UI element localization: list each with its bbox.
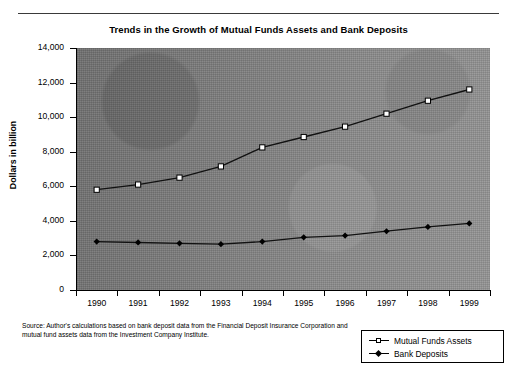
data-point-open-square bbox=[467, 87, 472, 92]
chart-figure: Dollars in billion 02,0004,0006,0008,000… bbox=[0, 0, 517, 365]
data-point-filled-diamond bbox=[94, 239, 100, 245]
mutual-funds-markers bbox=[94, 87, 472, 192]
data-point-filled-diamond bbox=[342, 232, 348, 238]
bank-deposits-line bbox=[97, 223, 470, 244]
data-point-filled-diamond bbox=[425, 224, 431, 230]
data-point-open-square bbox=[343, 124, 348, 129]
legend-label-mutual-funds-assets: Mutual Funds Assets bbox=[394, 336, 472, 346]
legend-label-bank-deposits: Bank Deposits bbox=[394, 349, 448, 359]
legend-item-bank-deposits: Bank Deposits bbox=[369, 347, 448, 360]
legend-item-mutual-funds-assets: Mutual Funds Assets bbox=[369, 334, 472, 347]
chart-page: Trends in the Growth of Mutual Funds Ass… bbox=[0, 0, 517, 365]
data-point-open-square bbox=[218, 164, 223, 169]
data-point-filled-diamond bbox=[466, 220, 472, 226]
data-point-open-square bbox=[384, 111, 389, 116]
data-point-open-square bbox=[136, 182, 141, 187]
data-point-filled-diamond bbox=[176, 240, 182, 246]
data-point-open-square bbox=[260, 145, 265, 150]
data-point-filled-diamond bbox=[259, 239, 265, 245]
data-point-filled-diamond bbox=[135, 239, 141, 245]
chart-legend: Mutual Funds Assets Bank Deposits bbox=[361, 330, 504, 363]
data-point-open-square bbox=[301, 134, 306, 139]
data-point-filled-diamond bbox=[301, 234, 307, 240]
data-point-open-square bbox=[94, 187, 99, 192]
filled-diamond-marker-icon bbox=[369, 348, 389, 359]
data-point-open-square bbox=[177, 175, 182, 180]
data-point-filled-diamond bbox=[383, 228, 389, 234]
data-point-filled-diamond bbox=[218, 241, 224, 247]
data-point-open-square bbox=[425, 98, 430, 103]
open-square-marker-icon bbox=[369, 335, 389, 346]
series-layer bbox=[0, 0, 517, 365]
mutual-funds-line bbox=[97, 90, 470, 190]
source-note: Source: Author's calculations based on b… bbox=[22, 321, 352, 339]
